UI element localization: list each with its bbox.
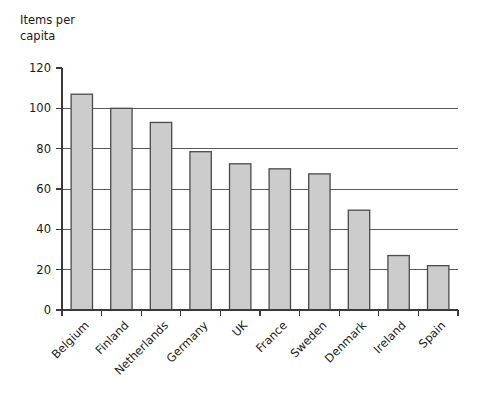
y-tick-label: 80 [36,142,51,156]
bar-spain [428,266,449,310]
y-tick-label: 120 [29,61,51,75]
bar-denmark [348,210,369,310]
y-axis-title-line-2: capita [20,29,55,43]
y-axis-title-line-1: Items per [20,13,75,27]
bar-uk [230,164,251,310]
bar-france [269,169,290,310]
bar-finland [111,108,132,310]
y-tick-label: 40 [36,222,51,236]
bar-sweden [309,174,330,310]
bar-germany [190,152,211,310]
y-tick-label: 0 [44,303,51,317]
chart-canvas: Items per capita 020406080100120 Belgium… [0,0,482,399]
bar-ireland [388,256,409,310]
bar-chart: Items per capita 020406080100120 Belgium… [0,0,482,399]
bar-netherlands [150,122,171,310]
y-tick-label: 100 [29,101,51,115]
y-tick-label: 20 [36,263,51,277]
y-tick-label: 60 [36,182,51,196]
bar-belgium [71,94,92,310]
